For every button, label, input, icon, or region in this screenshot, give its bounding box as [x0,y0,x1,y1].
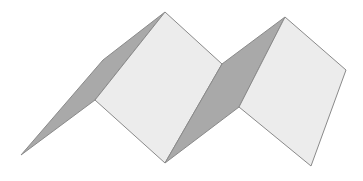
folded-paper-diagram [0,0,363,181]
